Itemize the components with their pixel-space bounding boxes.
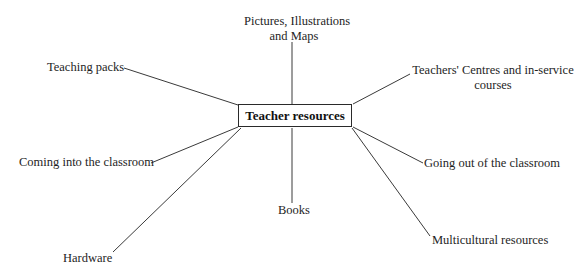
connector-hardware [113, 128, 241, 252]
branch-going-out-of-classroom: Going out of the classroom [424, 156, 560, 171]
connector-coming-into [151, 127, 238, 163]
connector-teachers-centres [353, 74, 410, 104]
central-node-label: Teacher resources [245, 108, 345, 124]
branch-coming-into-classroom: Coming into the classroom [19, 155, 154, 170]
branch-books: Books [278, 203, 310, 218]
branch-teachers-centres-line2: courses [408, 78, 578, 93]
branch-teachers-centres-line1: Teachers' Centres and in-service [408, 63, 578, 78]
connector-going-out [353, 127, 423, 163]
branch-multicultural-resources: Multicultural resources [432, 233, 548, 248]
branch-pictures-line2: and Maps [244, 29, 344, 44]
connector-multicultural [352, 128, 430, 236]
branch-pictures-line1: Pictures, Illustrations [244, 14, 344, 29]
branch-hardware: Hardware [63, 251, 112, 266]
branch-pictures: Pictures, Illustrations and Maps [244, 14, 344, 44]
connector-teaching-packs [124, 68, 238, 105]
branch-teachers-centres: Teachers' Centres and in-service courses [408, 63, 578, 93]
branch-teaching-packs: Teaching packs [47, 60, 124, 75]
central-node-teacher-resources: Teacher resources [238, 104, 352, 127]
